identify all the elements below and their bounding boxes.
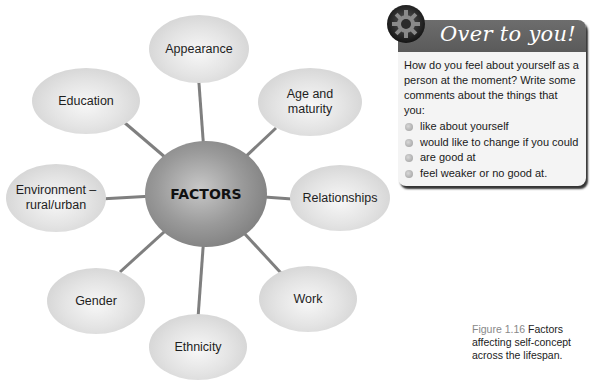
node-label: Ethnicity [174,340,221,355]
over-to-you-panel: Over to you! How do you feel about yours… [398,20,586,186]
node-label: Gender [75,294,117,309]
node-age-and-maturity: Age and maturity [258,68,362,136]
center-label: FACTORS [170,186,241,202]
node-label: Age and maturity [275,87,345,117]
center-node-factors: FACTORS [145,141,267,247]
node-appearance: Appearance [149,15,249,83]
node-label: Appearance [165,42,232,57]
bullet-icon [405,123,413,131]
node-education: Education [32,68,140,134]
bullet-icon [405,170,413,178]
gear-icon [386,4,426,44]
node-ethnicity: Ethnicity [149,314,247,380]
panel-body: How do you feel about yourself as a pers… [398,52,586,181]
panel-list: like about yourself would like to change… [404,119,580,181]
bullet-icon [405,139,413,147]
node-label: Work [294,292,323,307]
node-environment: Environment – rural/urban [6,164,106,232]
node-label: Relationships [302,191,377,206]
bullet-icon [405,154,413,162]
list-item: feel weaker or no good at. [404,166,580,182]
figure-number: Figure 1.16 [472,323,525,335]
figure-caption: Figure 1.16 Factors affecting self-conce… [472,323,592,362]
panel-header: Over to you! [398,20,586,52]
node-relationships: Relationships [290,165,390,231]
panel-title: Over to you! [440,22,576,46]
list-item: would like to change if you could [404,135,580,151]
panel-intro: How do you feel about yourself as a pers… [404,58,580,118]
list-item: like about yourself [404,119,580,135]
node-label: Education [58,94,114,109]
node-label: Environment – rural/urban [11,183,101,213]
node-work: Work [259,266,357,332]
list-item: are good at [404,150,580,166]
node-gender: Gender [47,268,145,334]
